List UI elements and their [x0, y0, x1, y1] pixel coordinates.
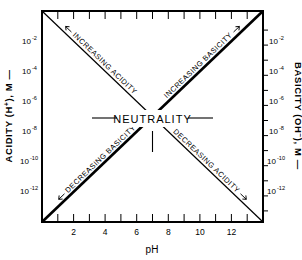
x-tick-6: 6 [134, 227, 139, 237]
x-axis-ticks [58, 214, 247, 222]
y-tick-left-12: 10 [20, 187, 29, 196]
decreasing-basicity-label: DECREASING BASICITY [63, 123, 137, 195]
y-tick-left-6: 10 [22, 97, 31, 106]
y-tick-left-2: 10 [22, 37, 31, 46]
y-axis-right-tick-labels: 10 -2 10 -4 10 -6 10 -8 10 -10 10 -12 [267, 35, 285, 197]
x-axis-tick-labels: 2 4 6 8 10 12 [71, 227, 236, 237]
y-tick-right-4: 10 [269, 67, 278, 76]
left-axis-title: ACIDITY (H+), M — [3, 69, 14, 162]
y-tick-right-4-exp: -4 [279, 65, 284, 71]
right-axis-title: BASICITY (OH−), M — [293, 62, 302, 170]
ph-scale-figure: 10 -2 10 -4 10 -6 10 -8 10 -10 10 -12 10… [0, 0, 302, 260]
svg-text:BASICITY (OH−), M —: BASICITY (OH−), M — [293, 62, 302, 170]
y-tick-right-2-exp: -2 [279, 35, 284, 41]
left-axis-title-tail: ), M — [3, 69, 14, 101]
left-axis-title-main: ACIDITY (H [3, 106, 14, 163]
y-tick-right-6-exp: -6 [279, 95, 284, 101]
x-axis-title: pH [146, 244, 159, 255]
chart-svg: 10 -2 10 -4 10 -6 10 -8 10 -10 10 -12 10… [0, 0, 302, 260]
y-tick-left-4-exp: -4 [32, 65, 37, 71]
x-tick-4: 4 [103, 227, 108, 237]
y-tick-left-4: 10 [22, 67, 31, 76]
y-tick-right-8: 10 [269, 127, 278, 136]
decreasing-acidity-label: DECREASING ACIDITY [171, 127, 241, 195]
decreasing-acidity-annotation: DECREASING ACIDITY [171, 127, 249, 202]
y-tick-right-6: 10 [269, 97, 278, 106]
decreasing-basicity-annotation: DECREASING BASICITY [55, 123, 137, 202]
right-axis-title-main: BASICITY (OH [293, 62, 302, 133]
x-tick-8: 8 [166, 227, 171, 237]
increasing-acidity-label: INCREASING ACIDITY [71, 30, 139, 96]
svg-text:ACIDITY (H+), M —: ACIDITY (H+), M — [3, 69, 14, 162]
y-tick-right-12-exp: -12 [277, 185, 285, 191]
y-tick-right-10: 10 [267, 157, 276, 166]
y-tick-left-10-exp: -10 [30, 155, 38, 161]
right-axis-title-tail: ), M — [293, 138, 302, 170]
y-tick-right-8-exp: -8 [279, 125, 284, 131]
increasing-basicity-label: INCREASING BASICITY [162, 30, 234, 100]
increasing-basicity-annotation: INCREASING BASICITY [162, 23, 242, 100]
y-tick-right-2: 10 [269, 37, 278, 46]
y-tick-left-2-exp: -2 [32, 35, 37, 41]
neutrality-label: NEUTRALITY [113, 113, 191, 125]
increasing-acidity-annotation: INCREASING ACIDITY [63, 23, 139, 96]
y-tick-left-8: 10 [22, 127, 31, 136]
y-tick-right-12: 10 [267, 187, 276, 196]
x-tick-2: 2 [71, 227, 76, 237]
x-tick-10: 10 [195, 227, 205, 237]
x-axis-top-ticks [58, 11, 247, 19]
y-tick-left-10: 10 [20, 157, 29, 166]
y-tick-left-8-exp: -8 [32, 125, 37, 131]
y-tick-left-6-exp: -6 [32, 95, 37, 101]
x-tick-12: 12 [227, 227, 237, 237]
y-tick-right-10-exp: -10 [277, 155, 285, 161]
y-tick-left-12-exp: -12 [30, 185, 38, 191]
y-axis-left-tick-labels: 10 -2 10 -4 10 -6 10 -8 10 -10 10 -12 [20, 35, 38, 197]
